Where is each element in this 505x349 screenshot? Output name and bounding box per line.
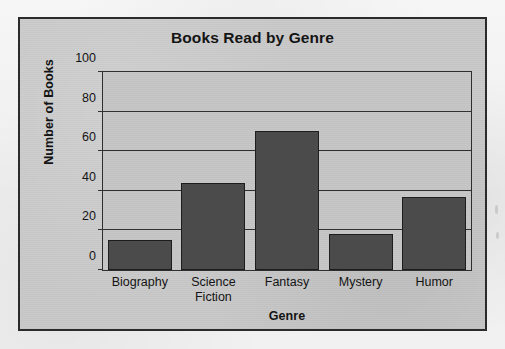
bar-series: BiographyScienceFictionFantasyMysteryHum… bbox=[103, 72, 471, 270]
chart-title: Books Read by Genre bbox=[20, 29, 485, 47]
x-tick-label: Biography bbox=[103, 275, 177, 290]
bar bbox=[181, 183, 245, 270]
bar bbox=[108, 240, 172, 270]
bar-group: Biography bbox=[103, 72, 177, 270]
y-tick-label: 60 bbox=[82, 130, 96, 144]
scan-speckle bbox=[496, 232, 499, 239]
y-tick-label: 20 bbox=[82, 209, 96, 223]
bar bbox=[255, 131, 319, 270]
y-tick-label: 0 bbox=[89, 249, 96, 263]
x-tick-label-line: Science bbox=[177, 275, 251, 290]
x-tick-label-line: Mystery bbox=[324, 275, 398, 290]
x-tick-label-line: Biography bbox=[103, 275, 177, 290]
y-tick-label: 100 bbox=[75, 51, 96, 65]
y-tick-label: 80 bbox=[82, 91, 96, 105]
x-axis-title: Genre bbox=[102, 309, 472, 323]
bar-group: Fantasy bbox=[250, 72, 324, 270]
x-tick-label-line: Humor bbox=[397, 275, 471, 290]
x-tick-label: Fantasy bbox=[250, 275, 324, 290]
y-axis-title: Number of Books bbox=[42, 37, 56, 187]
bar-group: Mystery bbox=[324, 72, 398, 270]
x-tick-label-line: Fantasy bbox=[250, 275, 324, 290]
bar-group: ScienceFiction bbox=[177, 72, 251, 270]
x-tick-label: ScienceFiction bbox=[177, 275, 251, 304]
plot-area: 020406080100 BiographyScienceFictionFant… bbox=[102, 71, 472, 271]
y-tick-label: 40 bbox=[82, 170, 96, 184]
x-tick-label: Mystery bbox=[324, 275, 398, 290]
bar bbox=[329, 234, 393, 270]
bar-group: Humor bbox=[397, 72, 471, 270]
bar bbox=[402, 197, 466, 270]
x-tick-label-line: Fiction bbox=[177, 290, 251, 305]
scan-speckle bbox=[495, 205, 498, 214]
x-tick-label: Humor bbox=[397, 275, 471, 290]
chart-figure-frame: Books Read by Genre Number of Books 0204… bbox=[18, 17, 487, 331]
scanned-page-background: Books Read by Genre Number of Books 0204… bbox=[0, 0, 505, 349]
